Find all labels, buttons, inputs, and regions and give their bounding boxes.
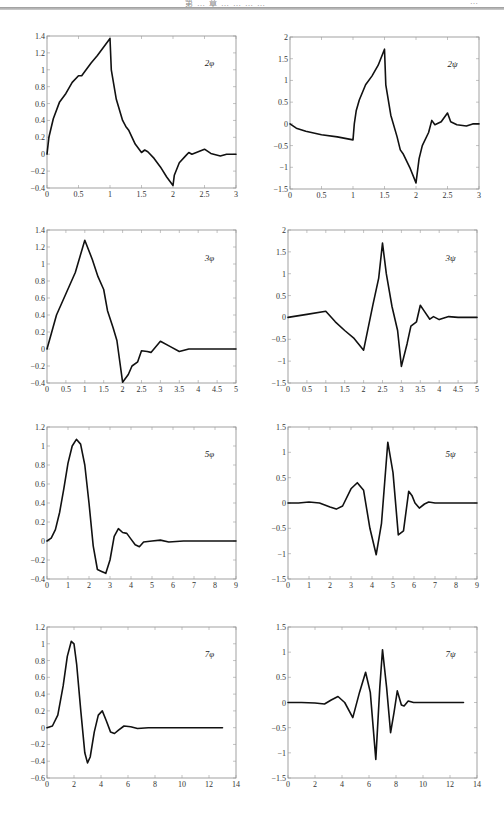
y-tick-label: 0 <box>282 699 286 708</box>
x-tick-label: 3 <box>158 385 162 394</box>
y-tick-label: −1 <box>277 357 286 366</box>
x-tick-label: 1 <box>66 581 70 590</box>
x-tick-label: 9 <box>475 581 479 590</box>
x-tick-label: 14 <box>473 780 481 789</box>
y-tick-label: 1.5 <box>276 248 286 257</box>
x-tick-label: 3 <box>477 191 481 200</box>
y-tick-label: 0.8 <box>35 461 45 470</box>
x-tick-label: 8 <box>213 581 217 590</box>
x-tick-label: 6 <box>171 581 175 590</box>
plot-label: 5φ <box>205 449 215 459</box>
x-tick-label: 8 <box>394 780 398 789</box>
x-tick-label: 14 <box>232 780 240 789</box>
x-tick-label: 5 <box>391 581 395 590</box>
y-tick-label: 0 <box>282 499 286 508</box>
x-tick-label: 0.5 <box>74 190 84 199</box>
y-tick-label: −1 <box>277 749 286 758</box>
y-tick-label: 1.2 <box>35 623 45 632</box>
x-tick-label: 0 <box>45 780 49 789</box>
x-tick-label: 0 <box>286 385 290 394</box>
x-tick-label: 1 <box>108 190 112 199</box>
y-tick-label: 1.5 <box>276 423 286 432</box>
y-tick-label: 0 <box>284 120 288 129</box>
y-tick-label: 0.2 <box>35 328 45 337</box>
y-tick-label: 0.5 <box>278 98 288 107</box>
x-tick-label: 2 <box>121 385 125 394</box>
y-tick-label: 0.8 <box>35 277 45 286</box>
y-tick-label: −1.5 <box>271 575 286 584</box>
y-tick-label: 1 <box>282 448 286 457</box>
plot-5phi: 0123456789−0.4−0.200.20.40.60.811.25φ <box>47 427 236 579</box>
x-tick-label: 5 <box>475 385 479 394</box>
y-tick-label: −0.6 <box>30 774 45 783</box>
y-tick-label: 0.8 <box>35 657 45 666</box>
y-tick-label: 1 <box>41 442 45 451</box>
y-tick-label: −0.5 <box>271 524 286 533</box>
y-tick-label: 1 <box>41 640 45 649</box>
x-tick-label: 0 <box>45 385 49 394</box>
plot-label: 2φ <box>205 58 215 68</box>
x-tick-label: 0 <box>288 191 292 200</box>
x-tick-label: 6 <box>367 780 371 789</box>
x-tick-label: 12 <box>446 780 454 789</box>
x-tick-label: 0 <box>286 780 290 789</box>
plot-label: 7ψ <box>445 649 456 659</box>
x-tick-label: 5 <box>234 385 238 394</box>
y-tick-label: 2 <box>284 33 288 42</box>
x-tick-label: 4.5 <box>453 385 463 394</box>
y-tick-label: 0 <box>41 537 45 546</box>
y-tick-label: −0.5 <box>271 724 286 733</box>
y-tick-label: 0 <box>41 345 45 354</box>
y-tick-label: −1.5 <box>271 379 286 388</box>
y-tick-label: 0.5 <box>276 673 286 682</box>
x-tick-label: 4 <box>99 780 103 789</box>
x-tick-label: 8 <box>153 780 157 789</box>
x-tick-label: 1.5 <box>380 191 390 200</box>
plot-label: 3φ <box>204 253 215 263</box>
plot-2phi: 00.511.522.53−0.4−0.200.20.40.60.811.21.… <box>47 36 236 188</box>
x-tick-label: 4 <box>196 385 200 394</box>
y-tick-label: 1.5 <box>278 55 288 64</box>
x-tick-label: 2 <box>72 780 76 789</box>
y-tick-label: 0.5 <box>276 474 286 483</box>
x-tick-label: 1.5 <box>340 385 350 394</box>
x-tick-label: 2 <box>414 191 418 200</box>
y-tick-label: −0.2 <box>30 740 45 749</box>
x-tick-label: 7 <box>433 581 437 590</box>
x-tick-label: 3.5 <box>415 385 425 394</box>
x-tick-label: 7 <box>192 581 196 590</box>
y-tick-label: −0.5 <box>271 335 286 344</box>
x-tick-label: 1.5 <box>99 385 109 394</box>
plot-3phi: 00.511.522.533.544.55−0.4−0.200.20.40.60… <box>47 230 236 383</box>
header-rule <box>0 7 504 10</box>
y-tick-label: 0 <box>41 724 45 733</box>
y-tick-label: −1 <box>279 163 288 172</box>
y-tick-label: 0.4 <box>35 499 45 508</box>
y-tick-label: −1.5 <box>271 774 286 783</box>
x-tick-label: 4 <box>340 780 344 789</box>
y-tick-label: 0.4 <box>35 116 45 125</box>
plot-label: 3ψ <box>444 253 456 263</box>
y-tick-label: 1 <box>284 76 288 85</box>
plot-5psi: 0123456789−1.5−1−0.500.511.55ψ <box>288 427 477 579</box>
y-tick-label: −0.2 <box>30 167 45 176</box>
x-tick-label: 2.5 <box>137 385 147 394</box>
y-tick-label: 0 <box>282 313 286 322</box>
x-tick-label: 1 <box>83 385 87 394</box>
x-tick-label: 0 <box>286 581 290 590</box>
plot-7psi: 02468101214−1.5−1−0.500.511.57ψ <box>288 627 477 778</box>
y-tick-label: 2 <box>282 226 286 235</box>
y-tick-label: 0 <box>41 150 45 159</box>
plot-label: 5ψ <box>445 449 456 459</box>
y-tick-label: 0.4 <box>35 690 45 699</box>
plot-label: 7φ <box>205 649 215 659</box>
y-tick-label: 0.6 <box>35 294 45 303</box>
page-number: … <box>470 0 479 6</box>
y-tick-label: 1 <box>41 260 45 269</box>
x-tick-label: 0 <box>45 581 49 590</box>
y-tick-label: −1 <box>277 550 286 559</box>
y-tick-label: 1.4 <box>35 32 45 41</box>
plot-label: 2ψ <box>447 59 458 69</box>
plot-3psi: 00.511.522.533.544.55−1.5−1−0.500.511.52… <box>288 230 477 383</box>
plot-2psi: 00.511.522.53−1.5−1−0.500.511.522ψ <box>290 37 479 189</box>
